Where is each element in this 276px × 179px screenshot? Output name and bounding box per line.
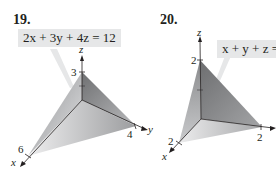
y-intercept-label: 4 <box>127 128 133 140</box>
figure-19: z 3 y 4 6 x <box>10 43 153 168</box>
problem-number-20: 20. <box>160 12 178 28</box>
z-intercept-label: 3 <box>71 66 77 78</box>
x-axis-label: x <box>10 156 16 168</box>
diagram-canvas: z 3 y 4 6 x z 2 2 2 x <box>0 0 276 179</box>
x-intercept-label: 2 <box>168 135 174 147</box>
plane-face-yz <box>200 60 262 127</box>
y-axis-label: y <box>147 123 153 135</box>
x-intercept-label: 6 <box>18 143 24 155</box>
equation-label-19: 2x + 3y + 4z = 12 <box>18 29 121 47</box>
problem-number-19: 19. <box>13 12 31 28</box>
equation-label-20: x + y + z = 2 <box>217 40 276 58</box>
z-axis-arrow-icon <box>80 55 84 61</box>
y-axis-arrow-icon <box>270 126 276 131</box>
y-intercept-label: 2 <box>257 131 263 143</box>
z-axis-label: z <box>196 26 202 38</box>
plane-face-xy <box>28 100 136 156</box>
y-axis-arrow-icon <box>141 126 148 131</box>
x-axis-label: x <box>161 150 167 162</box>
z-intercept-label: 2 <box>191 54 197 66</box>
